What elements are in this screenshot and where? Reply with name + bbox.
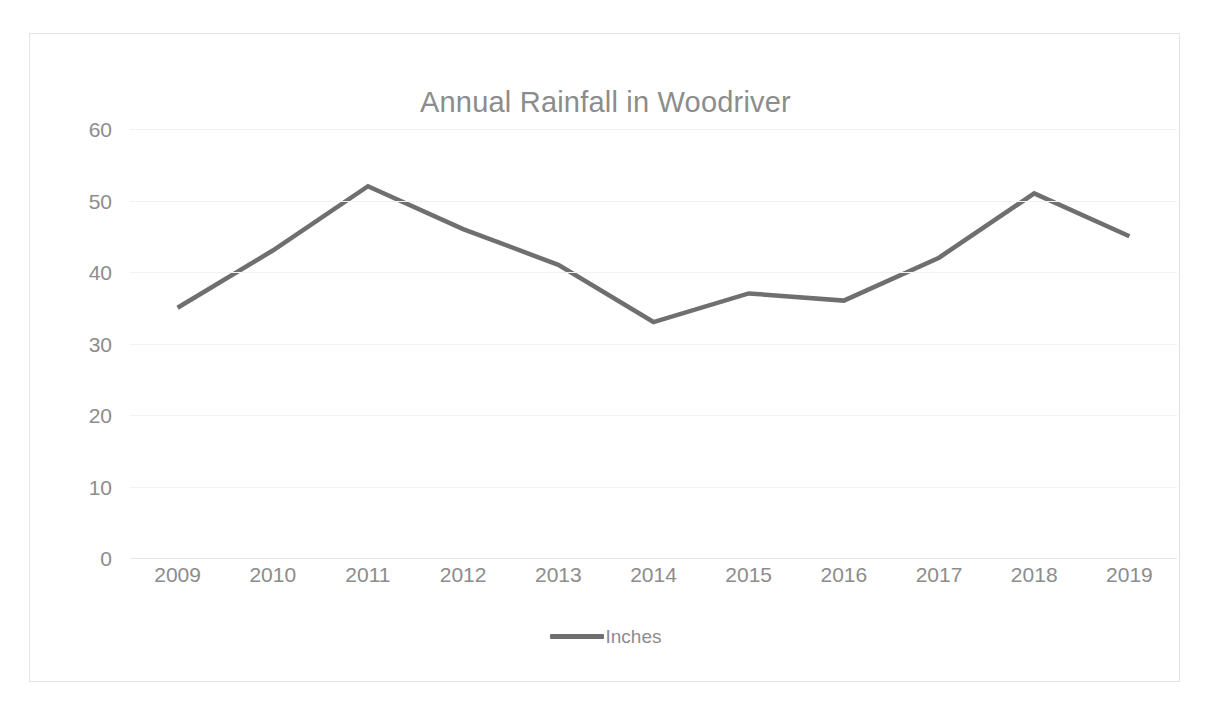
y-tick-label-60: 60 — [58, 119, 112, 140]
x-tick-label-2018: 2018 — [1011, 564, 1058, 585]
y-tick-label-0: 0 — [58, 548, 112, 569]
x-tick-label-2014: 2014 — [630, 564, 677, 585]
gridline-40 — [130, 272, 1177, 273]
gridline-20 — [130, 415, 1177, 416]
chart-title: Annual Rainfall in Woodriver — [30, 86, 1181, 119]
y-tick-label-20: 20 — [58, 405, 112, 426]
y-tick-label-30: 30 — [58, 333, 112, 354]
x-tick-label-2016: 2016 — [821, 564, 868, 585]
x-tick-label-2019: 2019 — [1106, 564, 1153, 585]
y-tick-label-10: 10 — [58, 476, 112, 497]
y-tick-label-40: 40 — [58, 262, 112, 283]
chart-legend: Inches — [30, 627, 1181, 646]
gridline-0 — [130, 558, 1177, 559]
x-tick-label-2017: 2017 — [916, 564, 963, 585]
x-tick-label-2012: 2012 — [440, 564, 487, 585]
chart-frame: Annual Rainfall in Woodriver 01020304050… — [29, 33, 1180, 682]
y-tick-label-50: 50 — [58, 190, 112, 211]
gridline-30 — [130, 344, 1177, 345]
x-tick-label-2013: 2013 — [535, 564, 582, 585]
plot-area — [130, 129, 1177, 558]
scan-top-text-artifact — [18, 0, 318, 10]
x-tick-label-2011: 2011 — [345, 564, 390, 585]
legend-label-inches: Inches — [606, 627, 662, 646]
y-axis: 0102030405060 — [58, 129, 112, 558]
x-axis: 2009201020112012201320142015201620172018… — [130, 564, 1177, 604]
x-tick-label-2015: 2015 — [725, 564, 772, 585]
x-tick-label-2009: 2009 — [154, 564, 201, 585]
gridline-10 — [130, 487, 1177, 488]
gridline-60 — [130, 129, 1177, 130]
x-tick-label-2010: 2010 — [249, 564, 296, 585]
gridline-50 — [130, 201, 1177, 202]
legend-line-swatch-icon — [550, 634, 604, 639]
